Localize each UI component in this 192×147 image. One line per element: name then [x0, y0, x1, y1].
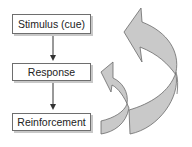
arrow-response-to-reinforcement: [50, 83, 56, 110]
diagram-connectors: [0, 0, 192, 147]
arrow-stimulus-to-response: [50, 36, 56, 61]
feedback-arrow-to-response: [101, 62, 129, 134]
feedback-arrow-to-stimulus: [124, 8, 178, 134]
